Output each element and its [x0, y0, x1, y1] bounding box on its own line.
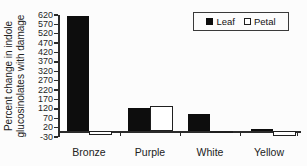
y-tick-mark — [54, 52, 58, 53]
y-tick-label: 120 — [0, 104, 53, 113]
y-tick-mark — [54, 118, 58, 119]
bar-leaf-bronze — [67, 16, 90, 131]
bar-petal-white — [210, 131, 233, 133]
legend-item-leaf: Leaf — [206, 16, 235, 27]
y-tick-mark — [54, 99, 58, 100]
bar-petal-purple — [150, 106, 173, 131]
y-tick-mark — [54, 24, 58, 25]
bar-petal-bronze — [89, 131, 112, 135]
x-tick-mark — [297, 132, 298, 136]
x-tick-mark — [240, 132, 241, 136]
bar-chart-figure: Percent change in indoleglucosinolates w… — [0, 0, 307, 166]
y-tick-mark — [54, 127, 58, 128]
y-tick-mark — [54, 33, 58, 34]
legend-item-petal: Petal — [244, 16, 276, 27]
x-tick-mark — [120, 132, 121, 136]
category-label-bronze: Bronze — [59, 146, 119, 158]
x-tick-mark — [180, 132, 181, 136]
bar-leaf-white — [188, 114, 211, 132]
y-tick-mark — [54, 61, 58, 62]
y-tick-mark — [54, 14, 58, 15]
y-tick-mark — [54, 80, 58, 81]
category-label-purple: Purple — [120, 146, 180, 158]
y-tick-mark — [54, 71, 58, 72]
y-tick-mark — [54, 136, 58, 137]
legend-leaf-swatch-icon — [206, 18, 213, 25]
category-label-white: White — [180, 146, 240, 158]
legend-leaf-label: Leaf — [216, 16, 235, 27]
y-tick-label: 520 — [0, 29, 53, 38]
legend-petal-label: Petal — [254, 16, 276, 27]
y-axis-line — [58, 15, 60, 137]
bar-leaf-yellow — [251, 129, 274, 132]
bar-petal-yellow — [273, 131, 296, 136]
y-tick-label: -30 — [0, 133, 53, 142]
bar-leaf-purple — [128, 108, 151, 131]
y-tick-mark — [54, 42, 58, 43]
y-tick-mark — [54, 89, 58, 90]
legend-petal-swatch-icon — [244, 18, 251, 25]
y-tick-mark — [54, 108, 58, 109]
y-tick-label: 20 — [0, 123, 53, 132]
y-tick-label: 270 — [0, 76, 53, 85]
category-label-yellow: Yellow — [239, 146, 299, 158]
legend: Leaf Petal — [193, 12, 289, 31]
